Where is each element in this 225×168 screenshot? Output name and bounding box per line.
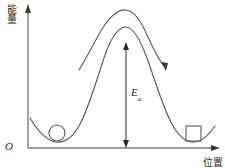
y-axis-label: 能量 [3,4,15,24]
x-axis-label: 位置 [203,158,223,168]
diagram-canvas [0,0,225,168]
y-axis-arrowhead-icon [25,4,31,13]
activation-energy-arrow-down-head-icon [123,140,129,148]
circle-marker [49,125,65,141]
activation-energy-arrow-up-head-icon [123,42,129,50]
trajectory-down-arrow-icon [161,62,168,71]
activation-energy-label: Ea [131,86,141,101]
origin-label: O [5,140,13,152]
square-marker [186,126,201,141]
activation-energy-subscript: a [138,95,142,103]
upper-trajectory-arc [79,10,163,70]
energy-position-diagram: 能量 位置 O Ea [0,0,225,168]
activation-energy-symbol: E [131,86,138,98]
x-axis-arrowhead-icon [211,145,220,151]
